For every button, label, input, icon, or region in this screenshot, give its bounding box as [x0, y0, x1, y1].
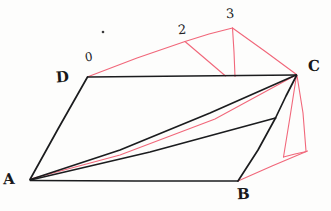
red-D-2-line — [89, 42, 186, 77]
vertex-label-a: A — [3, 172, 15, 187]
point-label-3: 3 — [226, 7, 235, 21]
edge-D-C-line — [88, 75, 297, 77]
diagram-canvas: A B C D 0 2 3 — [0, 0, 331, 211]
vertex-label-c: C — [308, 59, 321, 75]
geometry-figure — [0, 0, 331, 211]
edge-A-B-line — [31, 181, 238, 182]
vertex-label-d: D — [55, 70, 69, 86]
red-3-C-line — [233, 28, 297, 75]
vertex-label-b: B — [237, 187, 250, 203]
solid-edges-group — [30, 75, 297, 181]
point-label-2: 2 — [178, 23, 187, 37]
point-label-0: 0 — [84, 51, 93, 64]
red-A-C-line — [31, 75, 297, 179]
red-2-3-line — [185, 28, 233, 42]
stray-ink-dot — [102, 31, 105, 34]
red-2-drop-line — [185, 42, 226, 77]
edge-A-M-line — [31, 118, 276, 180]
red-3-drop-line — [233, 28, 236, 77]
edge-A-C-line — [31, 75, 297, 180]
red-C-K-line — [297, 76, 306, 152]
